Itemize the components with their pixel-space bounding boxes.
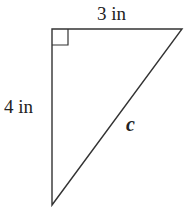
triangle-shape — [52, 29, 182, 205]
right-angle-marker — [52, 29, 68, 45]
hypotenuse-label: c — [126, 113, 135, 135]
top-side-label: 3 in — [97, 3, 127, 24]
left-side-label: 4 in — [4, 96, 34, 117]
right-triangle-diagram: 3 in 4 in c — [0, 0, 186, 222]
